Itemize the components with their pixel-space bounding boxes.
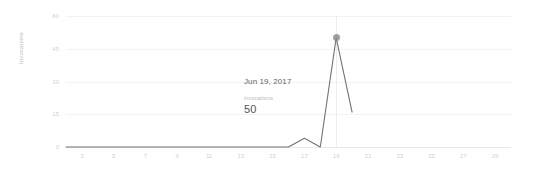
x-tick-label: 21 <box>365 153 372 159</box>
x-tick-label: 23 <box>396 153 403 159</box>
tooltip-metric-value: 50 <box>244 103 334 115</box>
x-tick-label: 7 <box>144 153 147 159</box>
data-point-marker-jun-19[interactable] <box>333 34 340 41</box>
x-tick-label: 17 <box>301 153 308 159</box>
x-tick-label: 11 <box>206 153 212 159</box>
x-tick-label: 5 <box>112 153 115 159</box>
x-tick-label: 13 <box>237 153 244 159</box>
tooltip-metric-label: invocations <box>244 95 334 101</box>
x-tick-label: 19 <box>333 153 340 159</box>
tooltip-date: Jun 19, 2017 <box>244 77 334 86</box>
y-tick-label: 15 <box>52 111 59 117</box>
invocations-line-chart: Invocations 604530150 357911131517192123… <box>0 0 533 174</box>
x-tick-label: 25 <box>428 153 435 159</box>
x-tick-label: 3 <box>80 153 83 159</box>
x-tick-label: 9 <box>176 153 179 159</box>
y-tick-label: 45 <box>52 46 59 52</box>
x-tick-label: 27 <box>460 153 467 159</box>
x-tick-label: 29 <box>492 153 499 159</box>
x-tick-label: 15 <box>269 153 276 159</box>
y-tick-label: 60 <box>52 13 59 19</box>
y-tick-label: 0 <box>56 144 59 150</box>
hover-tooltip: Jun 19, 2017 invocations 50 <box>244 77 334 115</box>
y-axis-title: Invocations <box>18 0 30 64</box>
y-tick-label: 30 <box>52 79 59 85</box>
